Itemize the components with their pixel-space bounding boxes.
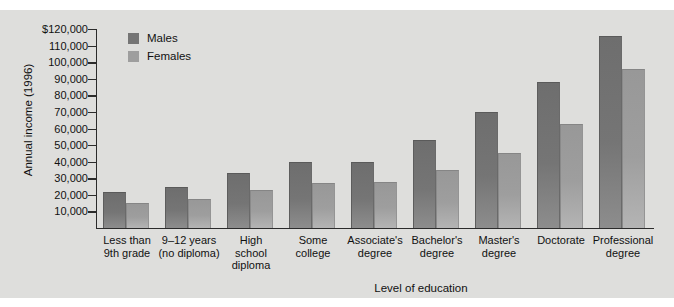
y-axis-tick-mark <box>88 112 96 113</box>
y-axis-tick-mark <box>88 195 96 196</box>
x-axis-title-text: Level of education <box>374 282 467 294</box>
bar-males <box>289 162 312 228</box>
bar-females <box>498 153 521 228</box>
bar-group <box>282 29 344 228</box>
bar-females <box>436 170 459 228</box>
y-axis-tick-label: 70,000 <box>14 107 88 117</box>
bar-males <box>351 162 374 228</box>
y-axis-tick-mark <box>88 62 96 63</box>
bar-females <box>250 190 273 228</box>
category-label-line: diploma <box>214 259 288 272</box>
x-axis-title: Level of education <box>0 282 674 294</box>
y-axis-tick-mark <box>88 95 96 96</box>
bar-group <box>158 29 220 228</box>
bar-females <box>312 183 335 228</box>
y-axis-tick-label: 110,000 <box>14 41 88 51</box>
bar-females <box>126 203 149 228</box>
y-axis-tick-label: 20,000 <box>14 190 88 200</box>
y-axis-tick-label: 30,000 <box>14 173 88 183</box>
bar-group <box>96 29 158 228</box>
y-axis-tick-mark <box>88 162 96 163</box>
bar-males <box>413 140 436 228</box>
y-axis-tick-mark <box>88 46 96 47</box>
y-axis-tick-mark <box>88 129 96 130</box>
bar-group <box>220 29 282 228</box>
y-axis-tick-mark <box>88 178 96 179</box>
y-axis-tick-label: 60,000 <box>14 124 88 134</box>
bar-group <box>406 29 468 228</box>
y-axis-tick-mark <box>88 79 96 80</box>
y-axis-tick-label: 90,000 <box>14 74 88 84</box>
bar-males <box>227 173 250 228</box>
bar-males <box>537 82 560 228</box>
y-axis-tick-mark <box>88 29 96 30</box>
chart-figure: Annual income (1996) $120,000110,000100,… <box>0 10 674 298</box>
y-axis-tick-mark <box>88 211 96 212</box>
bar-females <box>622 69 645 228</box>
bar-group <box>468 29 530 228</box>
y-axis-tick-labels: $120,000110,000100,00090,00080,00070,000… <box>10 10 88 298</box>
y-axis-tick-label: 40,000 <box>14 157 88 167</box>
bars-container <box>96 29 654 228</box>
bar-females <box>374 182 397 228</box>
y-axis-tick-label: 100,000 <box>14 57 88 67</box>
bar-males <box>165 187 188 228</box>
bar-males <box>103 192 126 228</box>
category-label-line: degree <box>462 247 536 260</box>
x-axis-category-label: Professionaldegree <box>586 234 660 259</box>
bar-group <box>592 29 654 228</box>
y-axis-tick-label: $120,000 <box>14 24 88 34</box>
bar-group <box>530 29 592 228</box>
bar-males <box>599 36 622 228</box>
bar-females <box>188 199 211 228</box>
y-axis-tick-mark <box>88 145 96 146</box>
y-axis-tick-label: 50,000 <box>14 140 88 150</box>
y-axis-tick-label: 10,000 <box>14 206 88 216</box>
bar-females <box>560 124 583 228</box>
category-label-line: degree <box>586 247 660 260</box>
bar-males <box>475 112 498 228</box>
category-label-line: Professional <box>586 234 660 247</box>
bar-group <box>344 29 406 228</box>
y-axis-tick-label: 80,000 <box>14 90 88 100</box>
